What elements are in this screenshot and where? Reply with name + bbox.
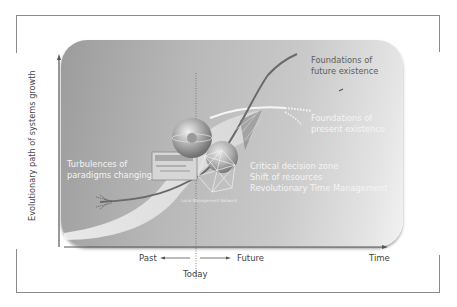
turbulences-line2: paradigms changing (67, 170, 152, 180)
present-foundations-line1: Foundations of (311, 113, 372, 123)
future-label: Future (237, 253, 264, 263)
y-axis-arrow-icon (57, 54, 61, 60)
past-arrow-head-icon (160, 257, 165, 260)
decision-zone-line2: Shift of resources (250, 172, 322, 182)
time-label: Time (369, 253, 390, 263)
future-arrow-head-icon (226, 257, 231, 260)
turbulences-line1: Turbulences of (67, 159, 127, 169)
present-foundations-line2: present existence (311, 124, 385, 134)
x-axis-arrow-icon (382, 245, 388, 249)
future-foundations-line2: future existence (311, 66, 378, 76)
y-axis-label: Evolutionary path of systems growth (27, 81, 37, 221)
decision-zone-line1: Critical decision zone (250, 161, 338, 171)
today-label: Today (183, 269, 208, 279)
decision-zone-line3: Revolutionary Time Management (250, 183, 388, 193)
past-label: Past (139, 253, 157, 263)
future-foundations-line1: Foundations of (311, 55, 372, 65)
network-caption: Local Management Network (181, 198, 237, 203)
sphere-graphic-small (206, 141, 238, 173)
